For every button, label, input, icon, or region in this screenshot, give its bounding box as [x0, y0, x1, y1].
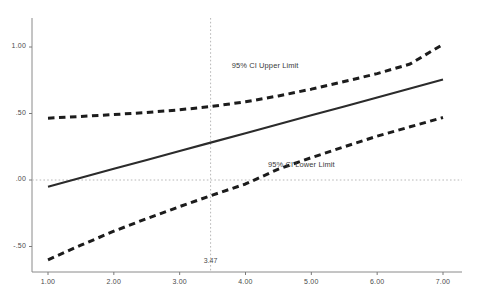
series-95-ci-lower-limit [48, 117, 443, 259]
x-axis-tick-label: 7.00 [423, 278, 463, 285]
chart-plot-svg [0, 0, 477, 300]
x-axis-tick-label: 1.00 [28, 278, 68, 285]
y-axis-tick-label: .00 [0, 175, 26, 182]
series-fit-line [48, 80, 443, 187]
x-axis-tick-label: 5.00 [291, 278, 331, 285]
y-axis-tick-label: -.50 [0, 242, 26, 249]
vertical-reference-label: 3.47 [196, 257, 226, 264]
upper-limit-label: 95% CI Upper Limit [232, 61, 332, 70]
chart-container: 1.00.50.00-.50 1.002.003.004.005.006.007… [0, 0, 477, 300]
y-axis-tick-label: 1.00 [0, 42, 26, 49]
y-axis-tick-label: .50 [0, 109, 26, 116]
x-axis-tick-label: 4.00 [226, 278, 266, 285]
lower-limit-label: 95% CI Lower Limit [268, 160, 368, 169]
x-axis-tick-label: 3.00 [160, 278, 200, 285]
x-axis-tick-label: 6.00 [357, 278, 397, 285]
series-95-ci-upper-limit [48, 44, 443, 118]
x-axis-tick-label: 2.00 [94, 278, 134, 285]
